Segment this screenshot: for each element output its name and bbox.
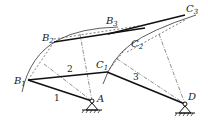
label-d: D <box>187 91 196 102</box>
chord-b1-b2 <box>28 42 54 80</box>
diagram-canvas: B1 B2 B3 C1 C2 C3 A D 1 2 3 <box>0 0 208 124</box>
label-c2: C2 <box>131 38 144 51</box>
label-a: A <box>96 93 104 104</box>
label-link-3: 3 <box>133 72 139 82</box>
chord-b2-b3 <box>54 25 145 39</box>
link-1 <box>28 80 92 101</box>
label-link-2: 2 <box>67 64 73 74</box>
bisector-c12 <box>117 59 185 104</box>
label-link-1: 1 <box>54 93 60 103</box>
label-c1: C1 <box>96 59 108 72</box>
label-b2: B2 <box>41 32 54 45</box>
bisector-c23 <box>159 34 185 104</box>
linkage-diagram: B1 B2 B3 C1 C2 C3 A D 1 2 3 <box>0 0 208 124</box>
coupler-position-3 <box>108 15 185 34</box>
ground-pivot-d <box>175 102 195 116</box>
link-3 <box>107 72 185 104</box>
label-b3: B3 <box>105 15 118 28</box>
label-b1: B1 <box>13 75 26 88</box>
label-c3: C3 <box>186 3 199 16</box>
bisector-b23 <box>80 34 92 101</box>
chord-c1-c2 <box>107 47 127 72</box>
